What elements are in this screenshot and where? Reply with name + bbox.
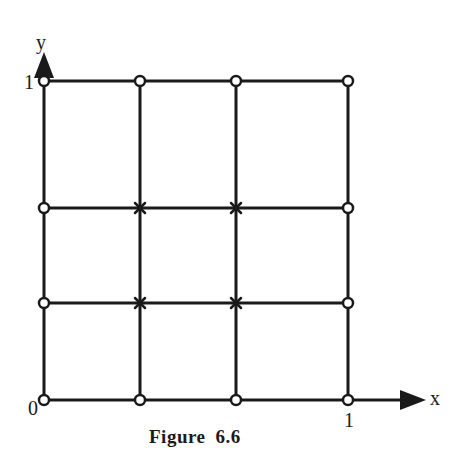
boundary-node [231, 395, 241, 405]
x-axis-arrowhead-icon [400, 390, 426, 410]
x-max-tick-label: 1 [344, 410, 354, 430]
boundary-node [39, 395, 49, 405]
caption-number: 6.6 [215, 426, 240, 447]
x-axis-label: x [430, 388, 440, 408]
y-max-tick-label: 1 [24, 72, 34, 92]
origin-label: 0 [28, 398, 38, 418]
boundary-node [135, 395, 145, 405]
y-axis-arrowhead-icon [34, 52, 54, 78]
boundary-node [231, 76, 241, 86]
grid-diagram [0, 0, 458, 466]
boundary-node [39, 203, 49, 213]
caption-label: Figure [149, 426, 205, 447]
boundary-node [39, 298, 49, 308]
y-axis-label: y [36, 32, 46, 52]
boundary-node [39, 76, 49, 86]
boundary-node [343, 298, 353, 308]
boundary-node [343, 203, 353, 213]
boundary-node [343, 76, 353, 86]
boundary-node [135, 76, 145, 86]
boundary-node [343, 395, 353, 405]
figure-caption: Figure6.6 [149, 426, 241, 448]
